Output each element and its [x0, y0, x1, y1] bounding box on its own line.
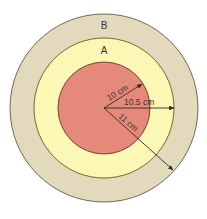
radius-label-10-5cm: 10.5 cm [124, 97, 154, 107]
label-b: B [101, 20, 108, 31]
label-a: A [101, 45, 108, 56]
concentric-circles-diagram: B A 10 cm 10.5 cm 11 cm [0, 0, 207, 219]
